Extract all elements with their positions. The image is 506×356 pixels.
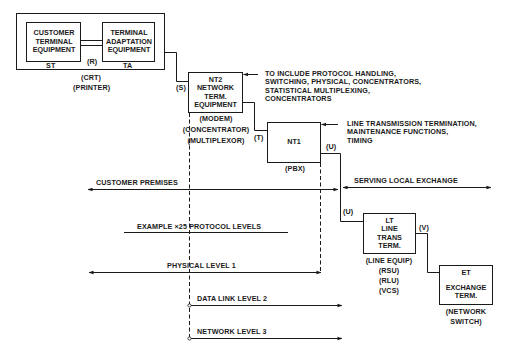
switch-label: SWITCH) [436,318,496,326]
cte-line-3: EQUIPMENT [33,46,76,54]
nt2-note-line-4: CONCENTRATORS [265,95,421,103]
nt1-note-line-3: TIMING [347,137,477,145]
ta-reference-label: TA [123,62,132,70]
printer-label: (PRINTER) [73,84,110,92]
pbx-label: (PBX) [285,165,305,173]
st-label: ST [46,62,55,70]
nt1-label: NT1 [267,123,321,162]
cte-label: CUSTOMER TERMINAL EQUIPMENT [27,23,81,61]
isdn-reference-diagram: CUSTOMER TERMINAL EQUIPMENT TERMINAL ADA… [0,0,506,356]
et-label: ET EXCHANGE TERM. [439,266,493,304]
serving-local-exchange-label: SERVING LOCAL EXCHANGE [354,177,458,185]
network-level-label: NETWORK LEVEL 3 [197,328,267,336]
concentrator-label: (CONCENTRATOR) [178,126,254,134]
customer-premises-label: CUSTOMER PREMISES [96,179,178,187]
line-equip-label: (LINE EQUIP) [358,257,420,265]
lt-line-4: TERM. [378,242,400,250]
rlu-label: (RLU) [358,277,420,285]
nt2-label: NT2 NETWORK TERM. EQUIPMENT [188,73,243,112]
data-link-level-label: DATA LINK LEVEL 2 [197,295,267,303]
ta-line-3: EQUIPMENT [108,46,151,54]
protocol-levels-heading: EXAMPLE ×25 PROTOCOL LEVELS [137,223,261,231]
nt1-line-1: NT1 [287,138,301,146]
et-line-4: TERM. [455,292,477,300]
nt2-note: TO INCLUDE PROTOCOL HANDLING, SWITCHING,… [265,70,421,104]
u-reference-point-top: (U) [326,143,336,151]
u-reference-point-bottom: (U) [343,208,353,216]
crt-label: (CRT) [81,74,101,82]
multiplexor-label: (MULTIPLEXOR) [180,137,252,145]
nt2-line-4: EQUIPMENT [194,101,237,109]
t-reference-point: (T) [254,134,263,142]
physical-level-label: PHYSICAL LEVEL 1 [167,262,236,270]
ta-label: TERMINAL ADAPTATION EQUIPMENT [101,23,157,61]
lt-label: LT LINE TRANS TERM. [363,214,416,253]
vcs-label: (VCS) [358,287,420,295]
network-label: (NETWORK [436,308,496,316]
nt1-note: LINE TRANSMISSION TERMINATION, MAINTENAN… [347,120,477,145]
s-reference-point: (S) [176,84,186,92]
et-line-1: ET [461,269,470,277]
r-reference-point: (R) [87,58,97,66]
modem-label: (MODEM) [180,115,252,123]
v-reference-point: (V) [419,224,429,232]
rsu-label: (RSU) [358,267,420,275]
